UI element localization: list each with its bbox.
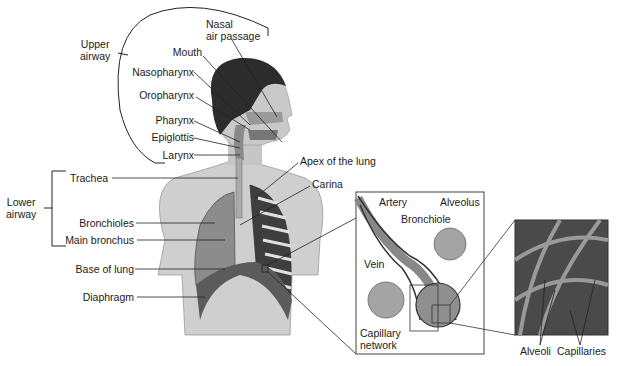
capillary-line2: network <box>360 339 401 351</box>
label-oropharynx: Oropharynx <box>120 89 194 101</box>
label-bronchiole: Bronchiole <box>401 213 451 225</box>
label-trachea: Trachea <box>70 172 108 184</box>
lower-airway-line1: Lower <box>6 196 36 208</box>
label-artery: Artery <box>379 196 407 208</box>
upper-airway-line1: Upper <box>80 38 110 50</box>
upper-airway-line2: airway <box>80 50 110 62</box>
capillary-line1: Capillary <box>360 327 401 339</box>
nasal-line2: air passage <box>206 30 260 42</box>
label-larynx: Larynx <box>120 149 194 161</box>
label-apex-of-lung: Apex of the lung <box>300 155 376 167</box>
label-nasal-air-passage: Nasal air passage <box>206 18 260 42</box>
label-diaphragm: Diaphragm <box>40 291 134 303</box>
upper-airway-label: Upper airway <box>80 38 110 62</box>
label-pharynx: Pharynx <box>120 114 194 126</box>
alveolus-cluster <box>434 228 466 260</box>
lower-airway-label: Lower airway <box>6 196 36 220</box>
label-bronchioles: Bronchioles <box>40 217 134 229</box>
label-alveolus: Alveolus <box>440 196 480 208</box>
label-alveoli: Alveoli <box>520 345 551 357</box>
label-epiglottis: Epiglottis <box>120 131 194 143</box>
label-capillaries: Capillaries <box>557 345 606 357</box>
label-carina: Carina <box>312 178 343 190</box>
trachea <box>236 158 242 218</box>
label-capillary-network: Capillary network <box>360 327 401 351</box>
label-main-bronchus: Main bronchus <box>40 234 134 246</box>
respiratory-diagram: Upper airway Lower airway Nasal air pass… <box>0 0 618 366</box>
label-nasopharynx: Nasopharynx <box>120 66 194 78</box>
label-base-of-lung: Base of lung <box>40 263 134 275</box>
nasal-line1: Nasal <box>206 18 260 30</box>
label-mouth: Mouth <box>140 46 202 58</box>
lower-airway-line2: airway <box>6 208 36 220</box>
label-vein: Vein <box>364 258 384 270</box>
